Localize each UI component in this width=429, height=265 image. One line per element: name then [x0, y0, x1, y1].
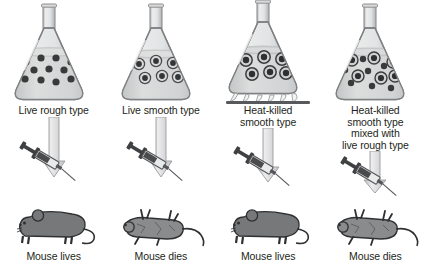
experiment-column-live-rough: Live rough type: [0, 0, 107, 265]
transfer-step: [215, 128, 322, 203]
syringe-icon: [225, 144, 299, 186]
flask-live-smooth: [107, 0, 214, 104]
flask-live-rough: [0, 0, 107, 104]
outcome-label: Mouse dies: [135, 250, 188, 262]
mouse-dead-illustration: [113, 203, 209, 249]
outcome-label: Mouse dies: [349, 250, 402, 262]
transfer-step: [107, 117, 214, 203]
treatment-label: Heat-killed smooth type mixed with live …: [342, 105, 409, 151]
treatment-label: Live smooth type: [122, 105, 200, 117]
flask-illustration: [8, 0, 100, 104]
griffith-experiment-diagram: Live rough type: [0, 0, 429, 265]
mouse-alive-illustration: [222, 203, 314, 249]
treatment-label: Heat-killed smooth type: [240, 105, 296, 128]
syringe-icon: [118, 139, 192, 181]
outcome-label: Mouse lives: [26, 250, 80, 262]
burner-plate: [226, 101, 310, 104]
syringe-icon: [11, 139, 85, 181]
experiment-column-heat-killed-smooth: Heat-killed smooth type: [215, 0, 322, 265]
transfer-step: [322, 151, 429, 203]
flask-heat-killed-smooth: [215, 0, 322, 104]
flask-illustration: [115, 0, 207, 104]
treatment-label: Live rough type: [18, 105, 88, 117]
mouse-live-rough: [0, 203, 107, 249]
flask-illustration: [329, 0, 421, 104]
flask-mixed: [322, 0, 429, 104]
transfer-step: [0, 117, 107, 203]
experiment-column-live-smooth: Live smooth type: [107, 0, 214, 265]
experiment-column-heat-killed-plus-rough: Heat-killed smooth type mixed with live …: [322, 0, 429, 265]
outcome-label: Mouse lives: [241, 250, 295, 262]
mouse-dead-illustration: [327, 203, 423, 249]
mouse-live-smooth: [107, 203, 214, 249]
mouse-mixed: [322, 203, 429, 249]
syringe-icon: [332, 154, 406, 196]
flask-illustration-heated: [222, 0, 314, 104]
flame-icon: [230, 93, 297, 102]
mouse-heat-killed-smooth: [215, 203, 322, 249]
mouse-alive-illustration: [8, 203, 100, 249]
